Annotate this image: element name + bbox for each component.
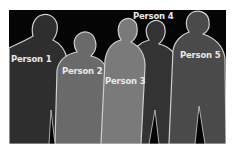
person-5-label: Person 5 [180,50,220,60]
person-3-label: Person 3 [105,76,145,86]
person-2-label: Person 2 [62,66,102,76]
person-1-label: Person 1 [11,54,51,64]
person-4-label: Person 4 [133,11,173,21]
segmentation-figure: Person 1 Person 2 Person 3 Person 4 Pers… [9,10,226,144]
